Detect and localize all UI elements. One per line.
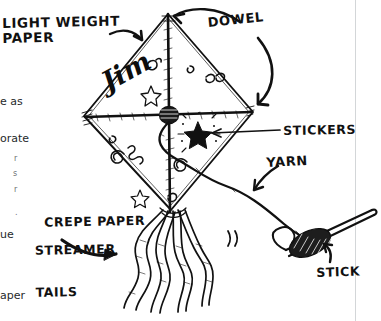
diagram-canvas: LIGHT WEIGHT PAPER DOWEL STICKERS YARN S…	[0, 0, 381, 321]
arrow-icon-stick	[324, 244, 332, 262]
tiny-text-fragment: r	[14, 155, 17, 163]
label-crepe-paper-streamer-tails: CREPE PAPER STREAMER TAILS	[24, 200, 147, 321]
label-yarn: YARN	[266, 154, 308, 171]
curved-arrow-icon-dowel-side	[258, 38, 272, 105]
label-light-weight-paper: LIGHT WEIGHT PAPER	[2, 14, 120, 47]
body-text-fragment: e as	[0, 96, 23, 107]
label-crepe-line3: TAILS	[35, 284, 146, 300]
label-stick: STICK	[316, 264, 361, 280]
body-text-fragment: aper	[0, 290, 25, 301]
tiny-text-fragment: .	[15, 209, 18, 217]
label-stickers: STICKERS	[283, 123, 356, 138]
spiral-doodle	[111, 151, 124, 163]
body-text-fragment: ue	[0, 229, 14, 240]
tiny-text-fragment: r	[14, 186, 17, 194]
motion-marks	[228, 231, 237, 246]
label-crepe-line1: CREPE PAPER	[44, 213, 145, 230]
label-crepe-line2: STREAMER	[35, 242, 146, 258]
tiny-text-fragment: s	[13, 170, 17, 178]
body-text-fragment: orate	[0, 133, 29, 144]
